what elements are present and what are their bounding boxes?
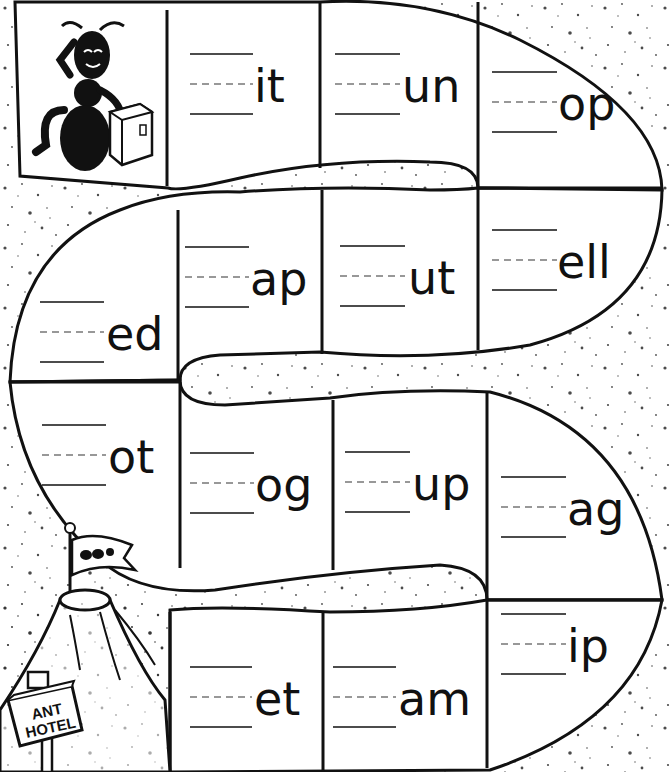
ending-ot: ot: [108, 430, 154, 484]
ending-ed: ed: [106, 307, 164, 361]
ending-ip: ip: [567, 619, 609, 673]
ending-op: op: [558, 77, 615, 131]
ending-it: it: [254, 59, 285, 113]
ending-un: un: [402, 59, 460, 113]
ending-og: og: [255, 458, 312, 512]
ending-ag: ag: [567, 482, 624, 536]
ending-am: am: [398, 672, 471, 726]
ending-up: up: [412, 457, 470, 511]
ending-ap: ap: [250, 252, 307, 306]
game-board: it un op ell ut ap ed ot: [0, 0, 671, 772]
ending-ell: ell: [557, 235, 611, 289]
ending-et: et: [254, 672, 300, 726]
ending-ut: ut: [408, 251, 455, 305]
